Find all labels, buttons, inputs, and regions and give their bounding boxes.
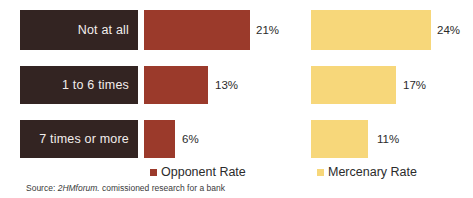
legend-label: Mercenary Rate [328,165,417,179]
source-prefix: Source: [26,183,58,193]
bar-mercenary[interactable] [311,10,431,50]
bar-value-mercenary: 24% [437,24,460,36]
chart-row: Not at all 21% 24% [0,10,473,50]
chart-row: 1 to 6 times 13% 17% [0,66,473,104]
legend-swatch-icon [150,169,157,176]
bar-value-opponent: 6% [182,133,199,145]
source-note: Source: 2HMforum. comissioned research f… [26,183,225,193]
category-label: 1 to 6 times [62,78,129,92]
legend-item-opponent[interactable]: Opponent Rate [150,165,246,179]
bar-mercenary[interactable] [311,120,368,158]
bar-opponent[interactable] [144,10,250,50]
category-label-box: Not at all [20,10,138,50]
bar-value-mercenary: 17% [403,79,426,91]
bar-value-mercenary: 11% [377,133,399,145]
legend-swatch-icon [317,169,324,176]
bar-opponent[interactable] [144,120,175,158]
bar-value-opponent: 13% [215,79,238,91]
chart-row: 7 times or more 6% 11% [0,120,473,158]
bar-value-opponent: 21% [256,24,279,36]
category-label: 7 times or more [39,132,129,146]
category-label-box: 7 times or more [20,120,138,158]
bar-mercenary[interactable] [311,66,396,104]
category-label: Not at all [78,23,129,37]
grouped-bar-chart: Not at all 21% 24% 1 to 6 times 13% 17% … [0,0,473,198]
source-org: 2HMforum. [58,183,100,193]
legend-label: Opponent Rate [161,165,246,179]
category-label-box: 1 to 6 times [20,66,138,104]
legend-item-mercenary[interactable]: Mercenary Rate [317,165,417,179]
source-rest: comissioned research for a bank [100,183,225,193]
bar-opponent[interactable] [144,66,208,104]
